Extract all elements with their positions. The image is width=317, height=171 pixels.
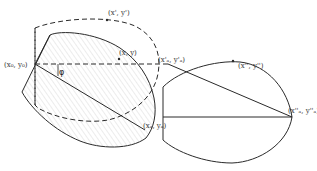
point-label: (x, y) bbox=[119, 49, 137, 57]
transformed-diagonal bbox=[168, 64, 292, 117]
rotated-a-label: (x'ₐ, y'ₐ) bbox=[158, 56, 185, 64]
scaled-point-label: (x'', y'') bbox=[238, 62, 264, 70]
angle-label: φ bbox=[59, 68, 64, 77]
point-marker bbox=[118, 58, 120, 60]
rotated-point-label: (x', y') bbox=[108, 9, 130, 17]
transformation-diagram: φ (x₀, y₀) (x, y) (x', y') (x'ₐ, y'ₐ) (x… bbox=[0, 0, 317, 171]
scaled-a-label: (x''ₐ, y''ₐ) bbox=[288, 107, 317, 115]
origin-label: (x₀, y₀) bbox=[4, 61, 28, 69]
point-a-label: (xₐ, yₐ) bbox=[143, 122, 166, 130]
scaled-point-marker bbox=[232, 60, 234, 62]
rotated-point-marker bbox=[106, 19, 108, 21]
transformed-shape bbox=[163, 62, 292, 163]
